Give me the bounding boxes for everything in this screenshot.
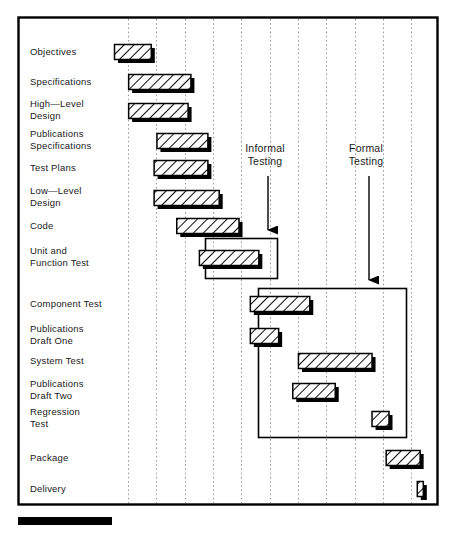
task-label: Specifications	[30, 76, 91, 87]
task-label: Regression	[30, 406, 80, 417]
task-label: Component Test	[30, 298, 102, 309]
gantt-bar	[154, 191, 219, 206]
gantt-bar	[372, 412, 389, 427]
task-label: Code	[30, 220, 54, 231]
annotation-label: Informal	[245, 142, 285, 154]
gantt-bar	[298, 354, 372, 369]
task-label: High—Level	[30, 98, 84, 109]
gantt-bar	[199, 251, 258, 266]
gantt-bar	[250, 297, 309, 312]
task-label: Draft One	[30, 335, 73, 346]
annotation-label: Testing	[248, 155, 283, 167]
gantt-bar	[157, 134, 208, 149]
task-label: Package	[30, 452, 68, 463]
gantt-bar	[129, 104, 188, 119]
task-label: Publications	[30, 128, 84, 139]
gantt-bar	[417, 482, 423, 497]
task-label: System Test	[30, 355, 84, 366]
task-labels: ObjectivesSpecificationsHigh—LevelDesign…	[30, 46, 102, 494]
task-label: Publications	[30, 323, 84, 334]
task-label: Test	[30, 418, 48, 429]
task-label: Unit and	[30, 245, 67, 256]
task-label: Low—Level	[30, 185, 81, 196]
gantt-bar	[293, 384, 335, 399]
gantt-chart-canvas: ObjectivesSpecificationsHigh—LevelDesign…	[0, 0, 470, 533]
progress-indicator	[18, 517, 112, 525]
task-label: Function Test	[30, 257, 89, 268]
gantt-chart-figure: ObjectivesSpecificationsHigh—LevelDesign…	[0, 0, 470, 533]
task-label: Specifications	[30, 140, 91, 151]
task-label: Objectives	[30, 46, 76, 57]
chart-annotations: InformalTestingFormalTesting	[245, 142, 383, 280]
task-label: Design	[30, 197, 61, 208]
gantt-bar	[250, 329, 278, 344]
task-label: Delivery	[30, 483, 66, 494]
task-label: Test Plans	[30, 162, 76, 173]
task-label: Design	[30, 110, 61, 121]
gantt-bar	[115, 45, 152, 60]
gantt-bar	[386, 451, 420, 466]
annotation-label: Formal	[349, 142, 383, 154]
annotation-label: Testing	[349, 155, 384, 167]
gantt-bar	[154, 161, 208, 176]
gantt-bar	[177, 219, 239, 234]
task-label: Draft Two	[30, 390, 72, 401]
task-label: Publications	[30, 378, 84, 389]
gantt-bar	[129, 75, 191, 90]
